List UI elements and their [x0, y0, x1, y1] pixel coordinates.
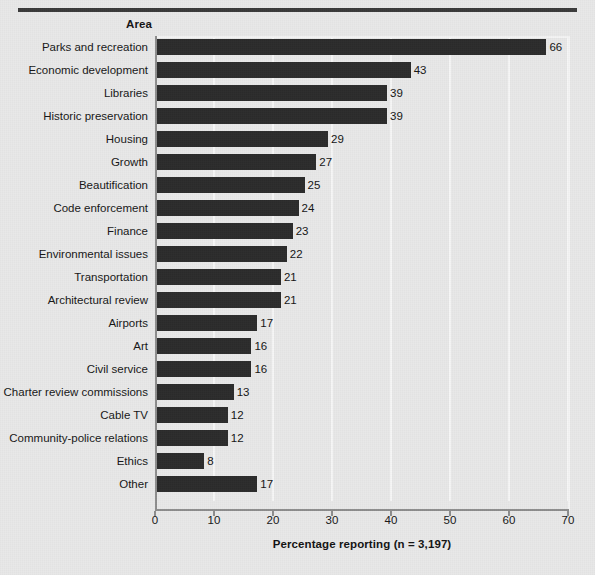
- category-label: Growth: [0, 151, 148, 174]
- bar: [157, 200, 299, 216]
- bar-row: Parks and recreation66: [0, 36, 595, 59]
- bar: [157, 246, 287, 262]
- bar: [157, 453, 204, 469]
- tick-label-60: 60: [489, 514, 529, 526]
- bar-row: Environmental issues22: [0, 243, 595, 266]
- category-label: Historic preservation: [0, 105, 148, 128]
- bar-value-label: 25: [308, 177, 321, 193]
- bar-value-label: 21: [284, 269, 297, 285]
- category-label: Civil service: [0, 358, 148, 381]
- bar: [157, 223, 293, 239]
- bar-row: Transportation21: [0, 266, 595, 289]
- bar-row: Community-police relations12: [0, 427, 595, 450]
- bar: [157, 384, 234, 400]
- category-label: Architectural review: [0, 289, 148, 312]
- bar-value-label: 39: [390, 85, 403, 101]
- category-label: Libraries: [0, 82, 148, 105]
- bar-value-label: 66: [549, 39, 562, 55]
- bar-row: Finance23: [0, 220, 595, 243]
- tick-label-40: 40: [371, 514, 411, 526]
- bar-value-label: 23: [296, 223, 309, 239]
- bar: [157, 131, 328, 147]
- category-label: Charter review commissions: [0, 381, 148, 404]
- category-label: Other: [0, 473, 148, 496]
- x-axis-line: [155, 509, 569, 511]
- bar-row: Airports17: [0, 312, 595, 335]
- bar: [157, 269, 281, 285]
- area-column-header: Area: [0, 18, 152, 30]
- bar-value-label: 12: [231, 407, 244, 423]
- bar-row: Charter review commissions13: [0, 381, 595, 404]
- category-label: Transportation: [0, 266, 148, 289]
- bar-value-label: 29: [331, 131, 344, 147]
- bar: [157, 154, 316, 170]
- bar-row: Housing29: [0, 128, 595, 151]
- category-label: Economic development: [0, 59, 148, 82]
- category-label: Art: [0, 335, 148, 358]
- bar-row: Beautification25: [0, 174, 595, 197]
- category-label: Cable TV: [0, 404, 148, 427]
- category-label: Beautification: [0, 174, 148, 197]
- bar-value-label: 13: [237, 384, 250, 400]
- category-label: Housing: [0, 128, 148, 151]
- bar-value-label: 39: [390, 108, 403, 124]
- bar: [157, 108, 387, 124]
- category-label: Finance: [0, 220, 148, 243]
- bar-value-label: 21: [284, 292, 297, 308]
- tick-label-70: 70: [548, 514, 588, 526]
- bar-value-label: 16: [254, 361, 267, 377]
- tick-label-0: 0: [135, 514, 175, 526]
- bar-row: Civil service16: [0, 358, 595, 381]
- bar-row: Growth27: [0, 151, 595, 174]
- bar-row: Architectural review21: [0, 289, 595, 312]
- bar-row: Economic development43: [0, 59, 595, 82]
- bar-row: Libraries39: [0, 82, 595, 105]
- bar-chart-figure: Area Parks and recreation66Economic deve…: [0, 0, 595, 575]
- category-label: Ethics: [0, 450, 148, 473]
- bar: [157, 62, 411, 78]
- bar-value-label: 16: [254, 338, 267, 354]
- category-label: Airports: [0, 312, 148, 335]
- bar: [157, 315, 257, 331]
- bar-row: Cable TV12: [0, 404, 595, 427]
- tick-label-50: 50: [430, 514, 470, 526]
- bar-row: Other17: [0, 473, 595, 496]
- tick-label-30: 30: [312, 514, 352, 526]
- bar-row: Historic preservation39: [0, 105, 595, 128]
- bar-value-label: 27: [319, 154, 332, 170]
- bar-value-label: 43: [414, 62, 427, 78]
- bar: [157, 177, 305, 193]
- bar-row: Ethics8: [0, 450, 595, 473]
- bar-value-label: 8: [207, 453, 213, 469]
- top-rule-divider: [18, 8, 577, 12]
- tick-label-10: 10: [194, 514, 234, 526]
- category-label: Parks and recreation: [0, 36, 148, 59]
- bar-value-label: 17: [260, 315, 273, 331]
- bar: [157, 361, 251, 377]
- category-label: Code enforcement: [0, 197, 148, 220]
- bar: [157, 338, 251, 354]
- bar-value-label: 17: [260, 476, 273, 492]
- bar-value-label: 24: [302, 200, 315, 216]
- bar: [157, 476, 257, 492]
- bar-value-label: 22: [290, 246, 303, 262]
- tick-label-20: 20: [253, 514, 293, 526]
- x-axis-label: Percentage reporting (n = 3,197): [155, 538, 569, 550]
- category-label: Environmental issues: [0, 243, 148, 266]
- bar: [157, 292, 281, 308]
- bar: [157, 407, 228, 423]
- bar: [157, 39, 546, 55]
- bar-row: Art16: [0, 335, 595, 358]
- bar: [157, 85, 387, 101]
- category-label: Community-police relations: [0, 427, 148, 450]
- bar: [157, 430, 228, 446]
- bar-value-label: 12: [231, 430, 244, 446]
- bar-row: Code enforcement24: [0, 197, 595, 220]
